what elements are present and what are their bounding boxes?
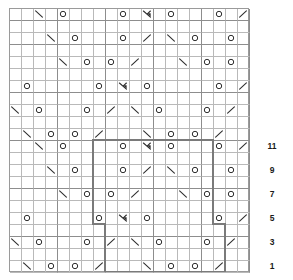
chart-cell <box>226 225 238 237</box>
chart-cell <box>226 69 238 81</box>
chart-cell <box>118 21 130 33</box>
chart-cell <box>214 141 226 153</box>
chart-cell <box>22 21 34 33</box>
chart-cell <box>238 165 250 177</box>
chart-cell <box>166 225 178 237</box>
chart-cell <box>46 69 58 81</box>
chart-cell <box>154 237 166 249</box>
chart-cell <box>238 93 250 105</box>
chart-cell <box>82 117 94 129</box>
chart-cell <box>178 177 190 189</box>
chart-cell <box>94 117 106 129</box>
chart-cell <box>22 33 34 45</box>
chart-cell <box>94 225 106 237</box>
chart-cell <box>58 93 70 105</box>
chart-cell <box>214 225 226 237</box>
chart-cell <box>118 189 130 201</box>
chart-cell <box>166 45 178 57</box>
chart-cell <box>70 237 82 249</box>
chart-cell <box>226 213 238 225</box>
chart-cell <box>70 117 82 129</box>
chart-cell <box>130 213 142 225</box>
chart-cell <box>58 69 70 81</box>
chart-cell <box>142 189 154 201</box>
chart-cell <box>178 225 190 237</box>
chart-cell <box>190 201 202 213</box>
chart-cell <box>130 153 142 165</box>
chart-cell <box>82 189 94 201</box>
chart-cell <box>238 129 250 141</box>
chart-cell <box>94 57 106 69</box>
chart-cell <box>70 57 82 69</box>
chart-cell <box>190 21 202 33</box>
chart-cell <box>46 93 58 105</box>
chart-cell <box>46 9 58 21</box>
chart-cell <box>94 45 106 57</box>
chart-cell <box>70 213 82 225</box>
chart-cell <box>214 249 226 261</box>
chart-cell <box>94 165 106 177</box>
chart-cell <box>82 201 94 213</box>
chart-cell <box>142 81 154 93</box>
chart-cell <box>46 177 58 189</box>
chart-cell <box>190 69 202 81</box>
chart-cell <box>22 165 34 177</box>
chart-cell <box>70 153 82 165</box>
chart-cell <box>238 69 250 81</box>
chart-cell <box>166 117 178 129</box>
chart-cell <box>130 33 142 45</box>
chart-cell <box>34 261 46 273</box>
chart-cell <box>154 249 166 261</box>
chart-cell <box>10 189 22 201</box>
chart-cell <box>46 33 58 45</box>
chart-cell <box>58 81 70 93</box>
chart-cell <box>178 81 190 93</box>
chart-cell <box>178 201 190 213</box>
chart-cell <box>82 213 94 225</box>
chart-cell <box>106 177 118 189</box>
chart-cell <box>202 57 214 69</box>
chart-cell <box>94 9 106 21</box>
chart-cell <box>154 177 166 189</box>
chart-cell <box>190 237 202 249</box>
chart-cell <box>130 129 142 141</box>
chart-cell <box>190 213 202 225</box>
chart-cell <box>94 21 106 33</box>
chart-cell <box>130 57 142 69</box>
chart-cell <box>46 45 58 57</box>
chart-cell <box>130 81 142 93</box>
chart-cell <box>190 225 202 237</box>
chart-cell <box>226 105 238 117</box>
chart-cell <box>166 9 178 21</box>
chart-cell <box>142 225 154 237</box>
chart-cell <box>58 105 70 117</box>
chart-cell <box>202 165 214 177</box>
chart-cell <box>58 9 70 21</box>
chart-cell <box>22 105 34 117</box>
chart-cell <box>94 81 106 93</box>
chart-cell <box>226 237 238 249</box>
chart-cell <box>118 45 130 57</box>
chart-cell <box>178 45 190 57</box>
chart-cell <box>82 45 94 57</box>
chart-cell <box>154 153 166 165</box>
chart-cell <box>106 225 118 237</box>
chart-cell <box>82 9 94 21</box>
chart-cell <box>22 81 34 93</box>
chart-cell <box>214 69 226 81</box>
chart-cell <box>10 153 22 165</box>
chart-cell <box>10 9 22 21</box>
chart-cell <box>82 261 94 273</box>
chart-cell <box>106 45 118 57</box>
chart-cell <box>178 153 190 165</box>
chart-cell <box>178 249 190 261</box>
chart-cell <box>214 261 226 273</box>
chart-cell <box>106 249 118 261</box>
chart-cell <box>130 141 142 153</box>
chart-cell <box>10 165 22 177</box>
chart-cell <box>106 201 118 213</box>
chart-cell <box>22 153 34 165</box>
chart-cell <box>118 201 130 213</box>
row-number-label: 5 <box>262 212 282 224</box>
chart-cell <box>58 261 70 273</box>
